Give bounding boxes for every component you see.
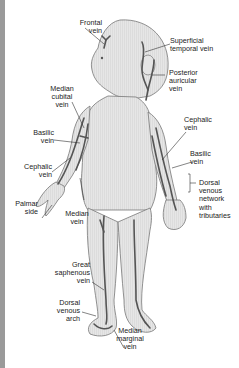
label-basilic-vein-left: Basilic vein bbox=[20, 129, 54, 145]
label-dorsal-venous-network: Dorsal venous network with tributaries bbox=[199, 179, 239, 220]
label-median-cubital-vein: Median cubital vein bbox=[45, 85, 79, 110]
label-dorsal-venous-arch: Dorsal venous arch bbox=[50, 299, 80, 324]
label-great-saphenous-vein: Great saphenous vein bbox=[50, 261, 90, 286]
label-cephalic-vein-right: Cephalic vein bbox=[184, 116, 224, 132]
label-median-marginal-vein: Median marginal vein bbox=[110, 327, 150, 352]
label-palmar-side: Palmar side bbox=[8, 200, 38, 216]
body-outline bbox=[36, 20, 186, 336]
label-posterior-auricular-vein: Posterior auricular vein bbox=[169, 69, 219, 94]
label-basilic-vein-right: Basilic vein bbox=[190, 150, 230, 166]
label-frontal-vein: Frontal vein bbox=[62, 19, 102, 35]
label-superficial-temporal-vein: Superficial temporal vein bbox=[170, 37, 238, 53]
label-cephalic-vein-left: Cephalic vein bbox=[8, 163, 52, 179]
label-median-vein: Median vein bbox=[60, 210, 94, 226]
